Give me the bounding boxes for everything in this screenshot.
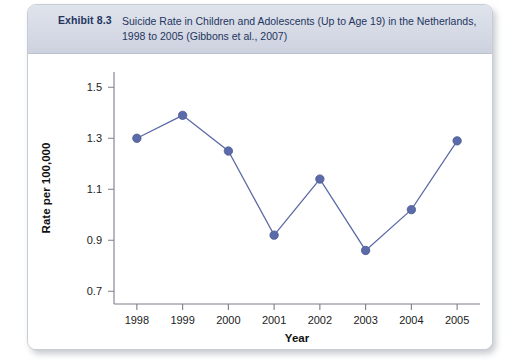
exhibit-header: Exhibit 8.3 Suicide Rate in Children and… <box>28 5 492 54</box>
y-tick-label: 1.3 <box>87 132 102 144</box>
x-tick-label: 2003 <box>353 314 377 326</box>
x-axis-title: Year <box>285 332 310 344</box>
data-series-points <box>133 111 462 255</box>
data-point <box>407 205 415 213</box>
data-point <box>453 137 461 145</box>
data-point <box>270 231 278 239</box>
x-axis-ticks: 19981999200020012002200320042005 <box>125 304 470 326</box>
x-tick-label: 1999 <box>170 314 194 326</box>
x-tick-label: 2005 <box>445 314 469 326</box>
x-tick-label: 2002 <box>308 314 332 326</box>
data-point <box>361 246 369 254</box>
exhibit-number-label: Exhibit 8.3 <box>58 14 112 26</box>
data-point <box>316 175 324 183</box>
y-tick-label: 1.1 <box>87 183 102 195</box>
chart-plot-area: 0.70.91.11.31.5 199819992000200120022003… <box>28 54 492 350</box>
data-point <box>133 134 141 142</box>
data-point <box>178 111 186 119</box>
y-tick-label: 1.5 <box>87 81 102 93</box>
exhibit-card: Exhibit 8.3 Suicide Rate in Children and… <box>27 4 493 350</box>
exhibit-caption: Suicide Rate in Children and Adolescents… <box>122 14 482 43</box>
x-tick-label: 1998 <box>125 314 149 326</box>
x-tick-label: 2004 <box>399 314 423 326</box>
data-point <box>224 147 232 155</box>
y-tick-label: 0.7 <box>87 285 102 297</box>
data-series-line <box>137 115 457 250</box>
y-axis-ticks: 0.70.91.11.31.5 <box>87 81 114 297</box>
line-chart: 0.70.91.11.31.5 199819992000200120022003… <box>28 54 493 350</box>
y-tick-label: 0.9 <box>87 234 102 246</box>
x-tick-label: 2001 <box>262 314 286 326</box>
x-tick-label: 2000 <box>216 314 240 326</box>
y-axis-title: Rate per 100,000 <box>40 143 52 234</box>
